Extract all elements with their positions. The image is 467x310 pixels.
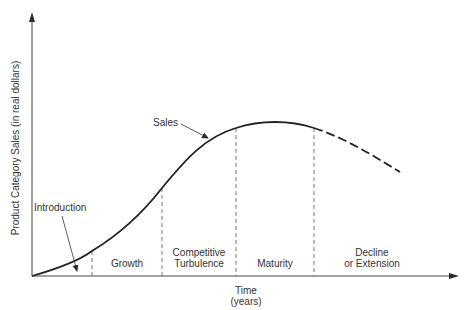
stage-label-maturity: Maturity <box>257 258 293 269</box>
sales-curve-decline <box>314 128 400 172</box>
sales-pointer-arrow <box>181 124 208 138</box>
introduction-label: Introduction <box>34 202 86 213</box>
y-axis-label: Product Category Sales (in real dollars) <box>10 61 21 236</box>
stage-label-extension: or Extension <box>344 258 400 269</box>
stage-label-turbulence: Turbulence <box>174 258 224 269</box>
sales-curve-label: Sales <box>153 117 178 128</box>
x-axis-arrow-icon <box>449 273 459 279</box>
y-axis-arrow-icon <box>29 12 35 22</box>
stage-label-competitive: Competitive <box>173 247 226 258</box>
stage-label-growth: Growth <box>111 258 143 269</box>
x-axis-label-time: Time <box>235 285 257 296</box>
x-axis-label-years: (years) <box>230 296 261 307</box>
stage-label-decline: Decline <box>355 247 389 258</box>
product-life-cycle-diagram: Product Category Sales (in real dollars)… <box>0 0 467 310</box>
